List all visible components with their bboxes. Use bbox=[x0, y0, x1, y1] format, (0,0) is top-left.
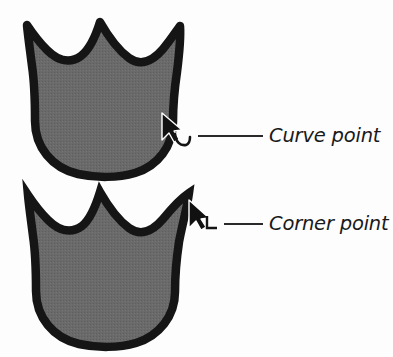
tulip-path-top bbox=[27, 22, 180, 177]
callout-label-corner-point: Corner point bbox=[269, 214, 388, 234]
tulip-shape-pointed-icon bbox=[28, 192, 189, 347]
tulip-path-bottom bbox=[28, 192, 189, 347]
figure-canvas: Curve point Corner point bbox=[0, 0, 393, 357]
tulip-shape-rounded-icon bbox=[27, 22, 180, 177]
callout-label-curve-point: Curve point bbox=[269, 126, 380, 146]
tulip-illustration bbox=[0, 0, 393, 357]
